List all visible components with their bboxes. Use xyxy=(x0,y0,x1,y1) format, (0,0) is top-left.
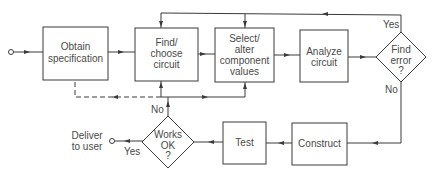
arrow-icon xyxy=(118,50,124,54)
node-obtain-specification[interactable]: Obtain specification xyxy=(43,27,108,80)
node-label: Find xyxy=(391,44,410,55)
node-label: Analyze xyxy=(306,46,342,57)
node-analyze-circuit[interactable]: Analyze circuit xyxy=(300,30,348,82)
start-terminal xyxy=(9,50,14,55)
decision-works-ok[interactable]: Works OK ? xyxy=(142,116,194,168)
arrow-icon xyxy=(284,53,290,57)
node-label: values xyxy=(230,66,259,77)
node-label: choose xyxy=(150,48,183,59)
node-label: ? xyxy=(165,150,171,161)
node-label: Select/ xyxy=(229,33,260,44)
node-label: Obtain xyxy=(61,41,90,52)
node-label: alter xyxy=(235,44,255,55)
arrow-icon xyxy=(159,82,163,88)
flowchart-canvas: Obtain specification Find/ choose circui… xyxy=(0,0,435,178)
arrow-icon xyxy=(200,52,206,56)
node-construct[interactable]: Construct xyxy=(292,123,347,165)
edge-no-obtain-dashed xyxy=(75,80,161,97)
node-select-alter-values[interactable]: Select/ alter component values xyxy=(215,28,274,82)
node-label: circuit xyxy=(311,57,337,68)
node-label: Works xyxy=(154,129,182,140)
arrow-icon xyxy=(322,12,328,16)
arrow-icon xyxy=(166,101,170,107)
node-label: specification xyxy=(48,53,103,64)
end-terminal xyxy=(110,139,115,144)
node-label: Test xyxy=(235,137,254,148)
deliver-label: to user xyxy=(72,141,103,152)
node-find-choose-circuit[interactable]: Find/ choose circuit xyxy=(135,28,198,81)
node-label: component xyxy=(220,55,270,66)
node-label: Construct xyxy=(298,138,341,149)
arrow-icon xyxy=(112,95,118,99)
arrow-icon xyxy=(159,21,163,27)
arrow-icon xyxy=(243,21,247,27)
arrow-icon xyxy=(124,139,130,143)
arrow-icon xyxy=(24,50,30,54)
deliver-label: Deliver xyxy=(71,130,103,141)
decision-find-error[interactable]: Find error ? xyxy=(376,32,426,82)
arrow-icon xyxy=(202,95,208,99)
find-error-yes-label: Yes xyxy=(383,19,399,30)
works-ok-yes-label: Yes xyxy=(124,146,140,157)
arrow-icon xyxy=(243,83,247,89)
node-label: Find/ xyxy=(155,37,177,48)
node-test[interactable]: Test xyxy=(223,122,266,164)
find-error-no-label: No xyxy=(385,84,398,95)
arrow-icon xyxy=(372,141,378,145)
works-ok-no-label: No xyxy=(151,104,164,115)
arrow-icon xyxy=(278,141,284,145)
node-label: circuit xyxy=(153,59,179,70)
arrow-icon xyxy=(208,140,214,144)
node-label: ? xyxy=(398,65,404,76)
arrow-icon xyxy=(360,55,366,59)
